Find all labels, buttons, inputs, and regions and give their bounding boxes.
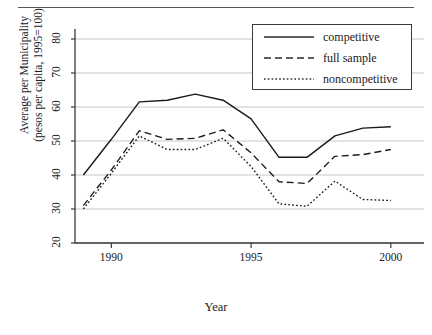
- legend-swatch-dashed-icon: [263, 52, 315, 64]
- y-tick-label: 20: [50, 231, 62, 253]
- x-tick-label: 1990: [89, 251, 133, 263]
- y-tick-label: 40: [50, 163, 62, 185]
- legend-label-full-sample: full sample: [323, 51, 377, 66]
- legend-entry-competitive: competitive: [253, 26, 411, 48]
- legend-label-noncompetitive: noncompetitive: [323, 72, 398, 87]
- y-tick-label: 70: [50, 61, 62, 83]
- chart-figure: 20304050607080 199019952000 Average per …: [0, 0, 432, 335]
- legend-swatch-solid-icon: [263, 31, 315, 43]
- y-tick-label: 50: [50, 129, 62, 151]
- y-tick-label: 60: [50, 95, 62, 117]
- data-series-group: [83, 94, 390, 209]
- y-tick-label: 30: [50, 197, 62, 219]
- legend-swatch-dotted-icon: [263, 73, 315, 85]
- legend-entry-full-sample: full sample: [253, 47, 411, 69]
- y-axis-title-line2: (pesos per capita, 1995=100): [32, 0, 46, 170]
- y-axis-title-line1: Average per Municipality: [18, 0, 32, 170]
- y-axis-title: Average per Municipality (pesos per capi…: [18, 0, 48, 170]
- chart-legend: competitive full sample noncompetitive: [252, 24, 412, 90]
- x-tick-label: 2000: [369, 251, 413, 263]
- x-axis-title: Year: [0, 300, 432, 315]
- legend-label-competitive: competitive: [323, 30, 380, 45]
- legend-entry-noncompetitive: noncompetitive: [253, 68, 411, 90]
- y-tick-label: 80: [50, 27, 62, 49]
- x-tick-label: 1995: [229, 251, 273, 263]
- series-line-noncompetitive: [83, 136, 390, 209]
- series-line-competitive: [83, 94, 390, 175]
